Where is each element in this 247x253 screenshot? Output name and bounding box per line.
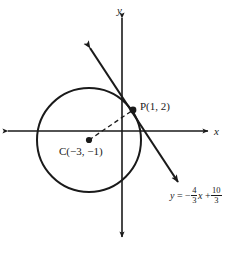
tangent-line-equation-label: y = −43x +103 [170, 186, 222, 205]
equation-lhs: y [170, 190, 174, 201]
slope-denominator: 3 [191, 196, 197, 205]
tangency-point-dot [130, 107, 137, 114]
equation-intercept-fraction: 103 [211, 186, 222, 205]
x-axis-label: x [214, 126, 219, 137]
diagram-canvas [0, 0, 247, 253]
equation-minus-sign: − [185, 190, 191, 201]
equation-variable: x [198, 190, 202, 201]
equation-plus-sign: + [205, 190, 211, 201]
coordinate-geometry-figure: x y P(1, 2) C(−3, −1) y = −43x +103 [0, 0, 247, 253]
center-point-dot [86, 137, 92, 143]
circle-center-label: C(−3, −1) [59, 146, 103, 157]
equation-equals: = [177, 190, 183, 201]
y-axis-label: y [117, 5, 122, 16]
tangent-line [90, 48, 178, 182]
radius-segment [89, 110, 133, 140]
intercept-denominator: 3 [211, 196, 222, 205]
point-p-label: P(1, 2) [140, 101, 170, 112]
equation-slope-fraction: 43 [191, 186, 197, 205]
